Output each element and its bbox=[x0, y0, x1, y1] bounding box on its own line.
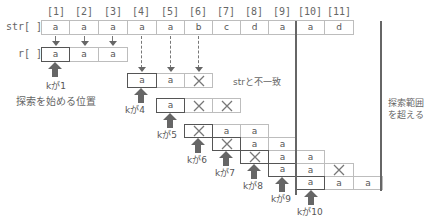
str-cell-2: a bbox=[69, 20, 99, 35]
mismatch-cell bbox=[184, 124, 213, 138]
cell: a bbox=[296, 176, 325, 190]
down-arrow-icon bbox=[109, 41, 117, 46]
cell: a bbox=[268, 163, 297, 177]
index-2: [2] bbox=[70, 6, 98, 17]
index-4: [4] bbox=[127, 6, 155, 17]
cross-icon bbox=[192, 75, 206, 87]
cross-icon bbox=[220, 138, 234, 150]
cell: a bbox=[296, 163, 325, 177]
r-label: r[ ] bbox=[18, 48, 42, 59]
cross-icon bbox=[220, 100, 234, 112]
str-cell-8: d bbox=[240, 20, 269, 35]
cross-icon bbox=[332, 164, 346, 176]
index-5: [5] bbox=[156, 6, 184, 17]
cross-icon bbox=[192, 125, 206, 137]
mismatch-cell bbox=[324, 163, 354, 177]
r-cell-3: a bbox=[98, 47, 128, 62]
up-arrow-icon bbox=[304, 190, 318, 205]
k-label-1: kが1 bbox=[46, 79, 66, 92]
cell: a bbox=[156, 98, 185, 113]
cell: a bbox=[324, 176, 354, 190]
cell: a bbox=[268, 137, 297, 151]
cell: a bbox=[268, 150, 297, 164]
r-cell-2: a bbox=[69, 47, 99, 62]
str-cell-10: a bbox=[296, 20, 325, 35]
k-label-9: kが9 bbox=[271, 192, 291, 205]
out-of-range-line2: を超える bbox=[384, 109, 428, 121]
down-arrow-icon bbox=[81, 41, 89, 46]
out-of-range-note: 探索範囲 を超える bbox=[384, 97, 428, 121]
down-arrow-icon bbox=[52, 41, 60, 46]
index-6: [6] bbox=[184, 6, 212, 17]
down-arrow-icon bbox=[167, 67, 175, 72]
mismatch-cell bbox=[212, 137, 241, 151]
cell: a bbox=[156, 73, 185, 88]
dashed-line bbox=[141, 36, 142, 68]
up-arrow-icon bbox=[191, 138, 205, 153]
cross-icon bbox=[192, 100, 206, 112]
k-label-5: kが5 bbox=[157, 128, 177, 141]
k-label-4: kが4 bbox=[125, 103, 145, 116]
str-cell-3: a bbox=[98, 20, 128, 35]
str-cell-9: a bbox=[268, 20, 297, 35]
index-9: [9] bbox=[268, 6, 296, 17]
cell: a bbox=[212, 124, 241, 138]
index-7: [7] bbox=[212, 6, 240, 17]
cross-icon bbox=[248, 151, 262, 163]
str-cell-11: d bbox=[324, 20, 354, 35]
up-arrow-icon bbox=[275, 177, 289, 192]
index-3: [3] bbox=[99, 6, 127, 17]
out-of-range-line1: 探索範囲 bbox=[384, 97, 428, 109]
cell: a bbox=[296, 150, 325, 164]
index-1: [1] bbox=[42, 6, 70, 17]
k-label-6: kが6 bbox=[187, 153, 207, 166]
str-cell-4: a bbox=[127, 20, 157, 35]
cell: a bbox=[240, 137, 269, 151]
mismatch-note: strと不一致 bbox=[233, 75, 281, 88]
k-label-8: kが8 bbox=[243, 179, 263, 192]
index-8: [8] bbox=[240, 6, 268, 17]
cell: a bbox=[353, 176, 383, 190]
up-arrow-icon bbox=[247, 164, 261, 179]
cell: a bbox=[127, 73, 157, 88]
dashed-line bbox=[198, 36, 199, 68]
str-label: str[ ] bbox=[6, 21, 42, 32]
str-cell-1: a bbox=[41, 20, 70, 35]
down-arrow-icon bbox=[138, 67, 146, 72]
up-arrow-icon bbox=[219, 151, 233, 166]
up-arrow-icon bbox=[48, 62, 62, 77]
cell: a bbox=[240, 124, 269, 138]
mismatch-cell bbox=[184, 98, 213, 113]
search-start-label: 探索を始める位置 bbox=[16, 93, 96, 108]
mismatch-cell bbox=[212, 98, 241, 113]
r-cell-1: a bbox=[41, 47, 70, 62]
boundary-line-k10 bbox=[295, 21, 297, 195]
up-arrow-icon bbox=[134, 88, 148, 103]
k-label-7: kが7 bbox=[215, 166, 235, 179]
up-arrow-icon bbox=[163, 113, 177, 128]
str-cell-7: c bbox=[212, 20, 241, 35]
index-10: [10] bbox=[296, 6, 324, 17]
mismatch-cell bbox=[240, 150, 269, 164]
str-cell-6: b bbox=[184, 20, 213, 35]
str-cell-5: a bbox=[156, 20, 185, 35]
index-11: [11] bbox=[325, 6, 353, 17]
down-arrow-icon bbox=[195, 67, 203, 72]
dashed-line bbox=[170, 36, 171, 68]
mismatch-cell bbox=[184, 73, 213, 88]
k-label-10: kが10 bbox=[297, 205, 323, 218]
boundary-line-end bbox=[380, 21, 382, 191]
